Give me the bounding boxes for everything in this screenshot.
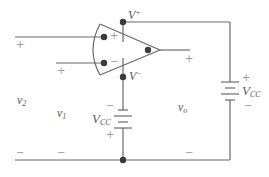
label-vo: vo	[178, 101, 187, 115]
left-battery-top-sign: −	[106, 101, 114, 111]
label-vplus: V+	[128, 9, 141, 21]
node-vplus	[120, 19, 126, 25]
node-common-ground	[120, 157, 126, 163]
label-vminus: V−	[129, 70, 142, 82]
op-amp-minus-sign: −	[110, 57, 118, 67]
right-battery-top-sign: +	[242, 73, 250, 83]
v1-plus-sign: +	[57, 66, 65, 76]
label-v2: v2	[17, 94, 26, 108]
node-input-plus	[101, 34, 107, 40]
label-right-vcc: VCC	[242, 84, 261, 99]
vo-minus-sign: −	[185, 148, 193, 158]
v2-minus-sign: −	[16, 148, 24, 158]
right-battery-bottom-sign: −	[244, 101, 252, 111]
v1-minus-sign: −	[57, 148, 65, 158]
vo-plus-sign: +	[185, 54, 193, 64]
v2-plus-sign: +	[16, 40, 24, 50]
label-v1: v1	[57, 107, 66, 121]
label-left-vcc: VCC	[92, 112, 111, 127]
left-battery-bottom-sign: +	[106, 130, 114, 140]
node-vminus	[120, 74, 126, 80]
node-input-minus	[101, 60, 107, 66]
op-amp-curved-input	[93, 24, 100, 75]
node-output	[145, 47, 151, 53]
op-amp-plus-sign: +	[110, 31, 118, 41]
circuit-schematic	[0, 0, 269, 177]
